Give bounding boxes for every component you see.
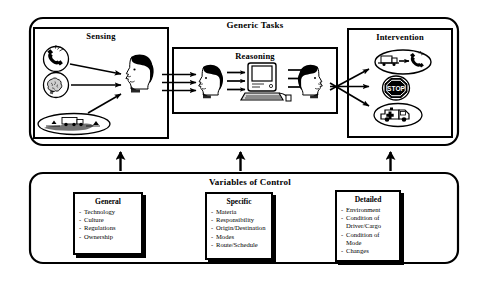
list-item: -Culture: [79, 216, 141, 224]
stop-sign-label: STOP: [387, 85, 405, 92]
truck-to-telephone-icon: [375, 50, 431, 74]
brain-head-icon: [44, 73, 69, 98]
list-item: -Regulations: [79, 224, 141, 232]
truck-landscape-icon: [38, 114, 110, 135]
list-item: -Environment: [341, 206, 399, 214]
variables-box-detailed-title: Detailed: [337, 195, 399, 204]
list-item: -Ownership: [79, 233, 141, 241]
generic-tasks-title: Generic Tasks: [180, 20, 330, 30]
variables-box-specific: Specific -Materia -Responsibility -Origi…: [205, 192, 273, 260]
list-item: -Origin/Destination: [211, 224, 271, 232]
diagram-canvas: STOP Generic Tasks Sensing Reasoning Int…: [0, 0, 487, 283]
list-item: -Modes: [211, 233, 271, 241]
variables-box-detailed: Detailed -Environment -Condition of -Dri…: [335, 190, 401, 262]
list-item: -Technology: [79, 208, 141, 216]
list-item: -Condition of: [341, 214, 399, 222]
reasoning-title: Reasoning: [173, 51, 337, 61]
sensing-title: Sensing: [34, 31, 168, 41]
variables-box-specific-list: -Materia -Responsibility -Origin/Destina…: [207, 208, 271, 249]
list-item: -Driver/Cargo: [341, 222, 399, 230]
stop-sign-icon: STOP: [383, 76, 410, 100]
variables-of-control-title: Variables of Control: [150, 177, 350, 187]
variables-box-specific-title: Specific: [207, 197, 271, 206]
list-item: -Route/Schedule: [211, 241, 271, 249]
list-item: -Materia: [211, 208, 271, 216]
variables-box-general-list: -Technology -Culture -Regulations -Owner…: [75, 208, 141, 241]
list-item: -Mode: [341, 239, 399, 247]
intervention-title: Intervention: [348, 32, 452, 42]
list-item: -Responsibility: [211, 216, 271, 224]
variables-box-detailed-list: -Environment -Condition of -Driver/Cargo…: [337, 206, 399, 255]
list-item: -Changes: [341, 247, 399, 255]
ambulance-icon: [374, 104, 422, 127]
variables-box-general-title: General: [75, 197, 141, 206]
variables-box-general: General -Technology -Culture -Regulation…: [73, 192, 143, 255]
list-item: -Condition of: [341, 231, 399, 239]
